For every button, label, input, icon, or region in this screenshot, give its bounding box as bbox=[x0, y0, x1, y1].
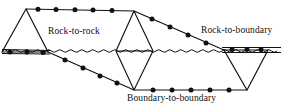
lower-left-diagonal bbox=[48, 52, 134, 90]
node bbox=[204, 41, 209, 46]
node bbox=[41, 50, 46, 55]
node bbox=[8, 50, 13, 55]
left-triangle bbox=[2, 9, 48, 52]
node bbox=[25, 50, 30, 55]
right-triangle bbox=[224, 50, 268, 90]
node bbox=[91, 8, 96, 13]
node bbox=[150, 17, 155, 22]
node bbox=[81, 66, 86, 71]
figure-container: Rock-to-rock Rock-to-boundary Boundary-t… bbox=[0, 0, 283, 108]
mesh-diagram-svg bbox=[0, 0, 283, 108]
node bbox=[186, 33, 191, 38]
mesh-edges bbox=[2, 9, 268, 90]
node bbox=[170, 88, 175, 93]
node bbox=[110, 8, 115, 13]
node bbox=[245, 47, 250, 52]
node bbox=[189, 88, 194, 93]
label-rock-to-rock: Rock-to-rock bbox=[48, 27, 100, 37]
node bbox=[63, 58, 68, 63]
node bbox=[208, 88, 213, 93]
label-rock-to-boundary: Rock-to-boundary bbox=[201, 26, 272, 36]
node bbox=[36, 7, 41, 12]
node bbox=[259, 47, 264, 52]
node bbox=[168, 25, 173, 30]
node bbox=[227, 88, 232, 93]
label-boundary-to-boundary: Boundary-to-boundary bbox=[127, 94, 216, 104]
node bbox=[115, 81, 120, 86]
node bbox=[151, 88, 156, 93]
node bbox=[54, 7, 59, 12]
node bbox=[230, 47, 235, 52]
node bbox=[98, 74, 103, 79]
top-edge bbox=[26, 9, 134, 11]
node bbox=[73, 7, 78, 12]
